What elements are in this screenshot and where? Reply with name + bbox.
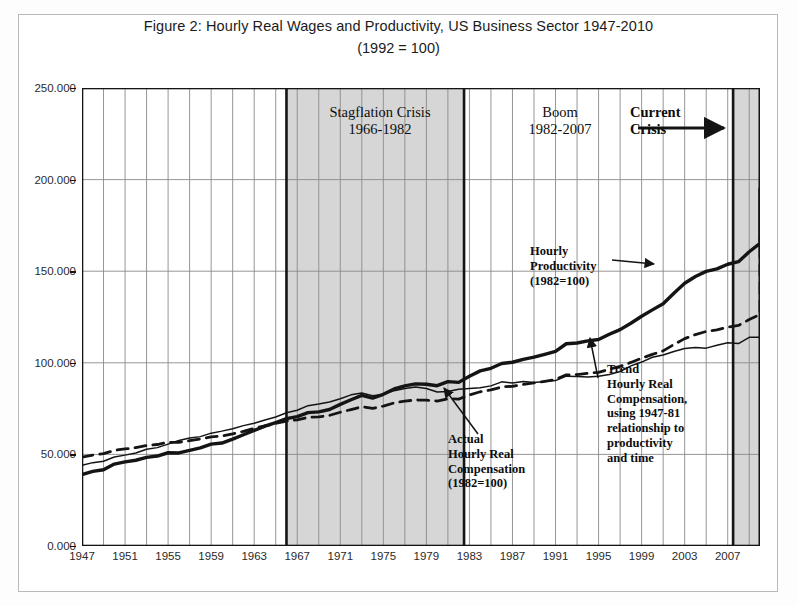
x-axis-tick-label: 1971 bbox=[327, 550, 353, 562]
x-axis-tick-label: 1991 bbox=[543, 550, 569, 562]
y-axis: 0.00050.000100.000150.000200.000250.000 bbox=[0, 88, 76, 546]
plot-area bbox=[82, 88, 760, 546]
y-axis-tick-label: 200.000 bbox=[4, 174, 76, 186]
y-axis-tick-mark bbox=[70, 180, 76, 181]
productivity-leader bbox=[612, 260, 654, 264]
x-axis-tick-label: 1975 bbox=[371, 550, 397, 562]
x-axis-tick-label: 2003 bbox=[672, 550, 698, 562]
y-axis-tick-mark bbox=[70, 88, 76, 89]
x-axis-tick-label: 1987 bbox=[500, 550, 526, 562]
y-axis-tick-label: 150.000 bbox=[4, 265, 76, 277]
x-axis-tick-label: 1951 bbox=[112, 550, 138, 562]
stagflation-band bbox=[286, 88, 464, 546]
y-axis-tick-label: 100.000 bbox=[4, 357, 76, 369]
leader-lines bbox=[444, 128, 724, 434]
y-axis-tick-mark bbox=[70, 454, 76, 455]
x-axis-tick-label: 1983 bbox=[457, 550, 483, 562]
y-axis-tick-label: 0.000 bbox=[4, 540, 76, 552]
y-axis-tick-label: 250.000 bbox=[4, 82, 76, 94]
x-axis-tick-label: 1963 bbox=[241, 550, 267, 562]
y-axis-tick-mark bbox=[70, 363, 76, 364]
y-axis-tick-label: 50.000 bbox=[4, 448, 76, 460]
shaded-bands bbox=[286, 88, 760, 546]
x-axis: 1947195119551959196319671971197519791983… bbox=[82, 550, 760, 572]
figure-page: Figure 2: Hourly Real Wages and Producti… bbox=[0, 0, 797, 606]
x-axis-tick-label: 1955 bbox=[155, 550, 181, 562]
x-axis-tick-label: 1959 bbox=[198, 550, 224, 562]
x-axis-tick-label: 1999 bbox=[629, 550, 655, 562]
x-axis-tick-label: 2007 bbox=[715, 550, 741, 562]
y-axis-tick-mark bbox=[70, 271, 76, 272]
x-axis-tick-label: 1967 bbox=[284, 550, 310, 562]
plot-svg bbox=[82, 88, 760, 546]
x-axis-tick-label: 1995 bbox=[586, 550, 612, 562]
x-axis-tick-label: 1947 bbox=[69, 550, 95, 562]
y-axis-tick-mark bbox=[70, 546, 76, 547]
x-axis-tick-label: 1979 bbox=[414, 550, 440, 562]
